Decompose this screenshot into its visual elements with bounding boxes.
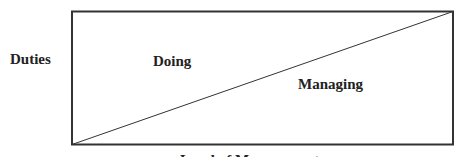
y-axis-label: Duties xyxy=(10,51,51,68)
region-label-doing: Doing xyxy=(153,53,191,70)
region-label-managing: Managing xyxy=(298,76,363,93)
diagram-canvas xyxy=(0,0,463,157)
x-axis-label: Level of Management xyxy=(180,152,319,157)
diagonal-divider xyxy=(72,12,453,145)
